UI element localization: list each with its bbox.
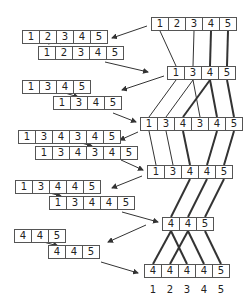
right-array-4: 445 (162, 217, 214, 231)
array-cell: 3 (67, 197, 84, 209)
index-label: 5 (213, 284, 229, 295)
array-cell: 4 (84, 197, 101, 209)
array-cell: 5 (49, 230, 65, 242)
array-cell: 4 (66, 246, 83, 258)
array-cell: 4 (209, 118, 226, 130)
right-array-0: 12345 (151, 17, 237, 31)
diagram-canvas: 1234513451343451344544544445123451234513… (0, 0, 249, 305)
array-cell: 4 (74, 31, 91, 43)
array-cell: 4 (67, 181, 84, 193)
array-cell: 5 (213, 265, 229, 277)
array-cell: 3 (40, 81, 57, 93)
array-cell: 1 (19, 131, 36, 143)
array-cell: 3 (192, 118, 209, 130)
left-array-bottom-4: 445 (48, 245, 100, 259)
array-cell: 1 (39, 47, 56, 59)
array-cell: 3 (185, 67, 202, 79)
left-array-top-2: 134345 (18, 130, 121, 144)
left-array-top-1: 1345 (22, 80, 91, 94)
right-array-1: 1345 (167, 66, 236, 80)
left-array-top-3: 13445 (15, 180, 101, 194)
array-cell: 4 (145, 265, 162, 277)
array-cell: 4 (90, 47, 107, 59)
array-cell: 4 (50, 181, 67, 193)
array-cell: 5 (121, 147, 137, 159)
array-cell: 4 (88, 97, 105, 109)
array-cell: 3 (73, 47, 90, 59)
array-cell: 1 (50, 197, 67, 209)
array-cell: 4 (32, 230, 49, 242)
left-array-bottom-3: 13445 (49, 196, 135, 210)
index-label: 1 (145, 284, 161, 295)
array-cell: 1 (141, 118, 158, 130)
left-array-top-4: 445 (14, 229, 66, 243)
array-cell: 3 (71, 97, 88, 109)
array-cell: 3 (36, 131, 53, 143)
array-cell: 3 (33, 181, 50, 193)
array-cell: 1 (148, 166, 165, 178)
array-cell: 3 (70, 131, 87, 143)
left-array-bottom-2: 134345 (35, 146, 138, 160)
array-cell: 3 (57, 31, 74, 43)
array-cell: 4 (196, 265, 213, 277)
array-cell: 4 (104, 147, 121, 159)
array-cell: 4 (53, 131, 70, 143)
index-label: 3 (179, 284, 195, 295)
array-cell: 5 (74, 81, 90, 93)
right-array-5: 44445 (144, 264, 230, 278)
array-cell: 5 (105, 97, 121, 109)
array-cell: 5 (226, 118, 242, 130)
left-array-bottom-0: 12345 (38, 46, 124, 60)
array-cell: 5 (219, 67, 235, 79)
array-cell: 1 (23, 81, 40, 93)
array-cell: 5 (84, 181, 100, 193)
left-array-top-0: 12345 (22, 30, 108, 44)
array-cell: 1 (54, 97, 71, 109)
index-label: 2 (162, 284, 178, 295)
array-cell: 4 (15, 230, 32, 242)
array-cell: 5 (107, 47, 123, 59)
array-cell: 4 (202, 67, 219, 79)
right-array-3: 13445 (147, 165, 233, 179)
array-cell: 1 (16, 181, 33, 193)
array-cell: 4 (180, 218, 197, 230)
array-cell: 5 (83, 246, 99, 258)
array-cell: 4 (57, 81, 74, 93)
array-cell: 3 (87, 147, 104, 159)
array-cell: 1 (168, 67, 185, 79)
array-cell: 4 (162, 265, 179, 277)
array-cell: 5 (91, 31, 107, 43)
array-cell: 3 (53, 147, 70, 159)
index-label: 4 (196, 284, 212, 295)
array-cell: 4 (163, 218, 180, 230)
left-array-bottom-1: 1345 (53, 96, 122, 110)
array-cell: 4 (49, 246, 66, 258)
array-cell: 1 (36, 147, 53, 159)
array-cell: 2 (40, 31, 57, 43)
array-cell: 3 (158, 118, 175, 130)
array-cell: 4 (182, 166, 199, 178)
array-cell: 5 (118, 197, 134, 209)
array-cell: 2 (169, 18, 186, 30)
array-cell: 5 (220, 18, 236, 30)
array-cell: 4 (175, 118, 192, 130)
array-cell: 4 (203, 18, 220, 30)
array-cell: 3 (165, 166, 182, 178)
array-cell: 1 (23, 31, 40, 43)
array-cell: 2 (56, 47, 73, 59)
array-cell: 1 (152, 18, 169, 30)
array-cell: 4 (87, 131, 104, 143)
array-cell: 4 (199, 166, 216, 178)
array-cell: 5 (197, 218, 213, 230)
array-cell: 4 (70, 147, 87, 159)
array-cell: 5 (104, 131, 120, 143)
array-cell: 4 (101, 197, 118, 209)
array-cell: 4 (179, 265, 196, 277)
array-cell: 3 (186, 18, 203, 30)
array-cell: 5 (216, 166, 232, 178)
right-array-2: 134345 (140, 117, 243, 131)
